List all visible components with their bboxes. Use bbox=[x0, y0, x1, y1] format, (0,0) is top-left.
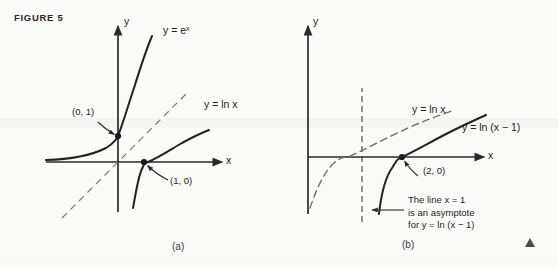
panel-b-x-axis-label: x bbox=[488, 149, 493, 161]
asymptote-note-line-3: for y = ln (x − 1) bbox=[408, 219, 475, 232]
panel-a-point-0-1-dot bbox=[115, 133, 121, 139]
filled-triangle-marker-icon bbox=[525, 238, 535, 247]
figure-container: FIGURE 5 bbox=[0, 0, 558, 268]
panel-a-caption: (a) bbox=[172, 241, 184, 252]
panel-a-point-1-0-dot bbox=[141, 159, 147, 165]
panel-b-curve-label-log: y = ln x bbox=[412, 103, 446, 115]
panel-a-x-axis-label: x bbox=[226, 154, 231, 166]
panel-a-log-curve bbox=[133, 130, 209, 208]
asymptote-note-line-1: The line x = 1 bbox=[408, 194, 475, 207]
panel-a-curve-label-exponential: y = eˣ bbox=[163, 24, 190, 36]
panel-a-point-0-1-leader bbox=[98, 122, 115, 135]
panel-b-y-axis-label: y bbox=[313, 15, 318, 27]
panel-b-point-label-2-0: (2, 0) bbox=[423, 165, 445, 176]
panel-a-exponential-curve bbox=[46, 36, 152, 160]
panel-a-plot bbox=[46, 26, 222, 218]
panel-a-point-1-0-leader bbox=[148, 166, 169, 181]
panel-b-curve-label-shifted-log: y = ln (x − 1) bbox=[462, 121, 520, 133]
panel-a-curve-label-log: y = ln x bbox=[204, 98, 238, 110]
panel-a-point-label-0-1: (0, 1) bbox=[72, 106, 94, 117]
panel-b-point-2-0-dot bbox=[399, 154, 405, 160]
panel-a-y-axis-label: y bbox=[124, 15, 129, 27]
panel-b-caption: (b) bbox=[402, 239, 414, 250]
asymptote-note-line-2: is an asymptote bbox=[408, 207, 475, 220]
panel-b-point-2-0-leader bbox=[405, 161, 419, 176]
panel-b-plot bbox=[308, 26, 486, 222]
panel-b-asymptote-note: The line x = 1 is an asymptote for y = l… bbox=[408, 194, 475, 232]
panel-a-point-label-1-0: (1, 0) bbox=[170, 175, 192, 186]
